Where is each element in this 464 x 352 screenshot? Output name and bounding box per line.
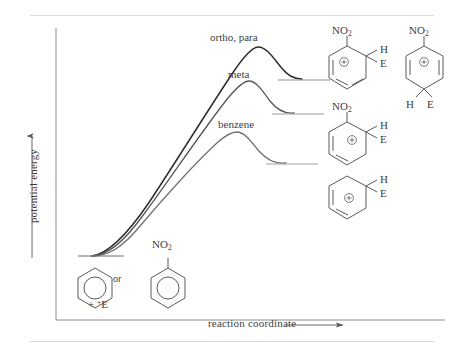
e-label-para: E [427, 98, 434, 110]
y-axis-label: potential energy [27, 126, 39, 246]
figure-canvas: potential energy reaction coordinate ort… [0, 0, 464, 352]
e-label-meta: E [380, 133, 387, 145]
e-label-benzene-arenium: E [380, 187, 387, 199]
curve-label-benzene: benzene [218, 118, 254, 130]
h-label-benzene-arenium: H [380, 173, 388, 185]
curve-ortho-para [92, 47, 302, 256]
reactant-electrophile: + +E [88, 298, 108, 310]
nitro-subscript: 2 [348, 105, 352, 114]
nitro-label-para: NO2 [409, 24, 429, 38]
nitro-text: NO [152, 238, 168, 250]
h-label-para: H [406, 98, 414, 110]
reactant-or-connector: or [113, 273, 121, 284]
nitro-subscript: 2 [168, 243, 172, 252]
curve-label-ortho-para: ortho, para [210, 31, 258, 43]
nitro-label-reactant: NO2 [152, 238, 172, 252]
h-label-meta: H [380, 119, 388, 131]
nitro-text: NO [332, 24, 348, 36]
electrophile-symbol: E [101, 298, 108, 310]
e-label-ortho: E [380, 57, 387, 69]
nitro-text: NO [409, 24, 425, 36]
nitro-label-ortho: NO2 [332, 24, 352, 38]
h-label-ortho: H [380, 43, 388, 55]
structure-meta-arenium [329, 112, 377, 165]
structure-ortho-arenium [329, 36, 377, 89]
nitro-label-meta: NO2 [332, 100, 352, 114]
structure-para-arenium [406, 36, 443, 97]
nitro-subscript: 2 [425, 29, 429, 38]
structure-nitrobenzene-reactant [151, 258, 185, 308]
plus-sign: + [88, 298, 97, 310]
curve-meta [92, 81, 294, 256]
nitro-subscript: 2 [348, 29, 352, 38]
energy-diagram-plot [0, 0, 464, 352]
structure-benzene-arenium [329, 176, 377, 219]
curve-label-meta: meta [228, 68, 249, 80]
x-axis-label: reaction coordinate [208, 317, 296, 329]
nitro-text: NO [332, 100, 348, 112]
